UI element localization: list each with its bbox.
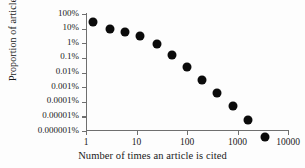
- y-axis-title: Proportion of articles: [7, 0, 18, 98]
- data-point: [136, 32, 145, 41]
- data-point: [183, 62, 192, 71]
- y-tick-label: 10%: [63, 22, 80, 33]
- data-point: [89, 17, 98, 26]
- x-tick-label: 1000: [228, 137, 247, 147]
- y-tick-label: 0.001%: [51, 81, 79, 92]
- y-tick: 0.0001%: [82, 102, 86, 103]
- y-tick-label: 100%: [58, 8, 79, 19]
- x-tick: [238, 131, 239, 135]
- data-point: [228, 102, 237, 111]
- x-tick: [86, 131, 87, 135]
- x-tick-label: 10000: [276, 137, 300, 147]
- data-point: [106, 25, 115, 34]
- x-tick: [288, 131, 289, 135]
- y-tick: 1%: [82, 43, 86, 44]
- y-tick: 10%: [82, 29, 86, 30]
- y-tick: 100%: [82, 14, 86, 15]
- citation-distribution-chart: Proportion of articles 100%10%1%0.1%0.01…: [0, 0, 305, 168]
- y-tick: 0.00001%: [82, 116, 86, 117]
- y-tick-label: 0.00001%: [42, 110, 79, 121]
- y-tick: 0.1%: [82, 58, 86, 59]
- y-tick-label: 0.1%: [60, 51, 79, 62]
- x-tick-label: 100: [180, 137, 194, 147]
- y-tick: 0.01%: [82, 73, 86, 74]
- y-tick-label: 0.01%: [56, 66, 79, 77]
- data-point: [152, 39, 161, 48]
- y-tick-label: 1%: [67, 37, 79, 48]
- y-tick-label: 0.000001%: [38, 125, 79, 136]
- y-tick-label: 0.0001%: [47, 95, 79, 106]
- x-tick-label: 1: [84, 137, 89, 147]
- x-axis-title: Number of times an article is cited: [0, 150, 305, 161]
- x-tick-label: 10: [132, 137, 142, 147]
- data-point: [198, 76, 207, 85]
- x-tick: [187, 131, 188, 135]
- data-point: [167, 51, 176, 60]
- y-tick: 0.001%: [82, 87, 86, 88]
- data-point: [213, 88, 222, 97]
- x-tick: [137, 131, 138, 135]
- data-point: [121, 27, 130, 36]
- plot-area: 100%10%1%0.1%0.01%0.001%0.0001%0.00001%0…: [86, 14, 288, 131]
- data-point: [260, 132, 269, 141]
- data-point: [243, 115, 252, 124]
